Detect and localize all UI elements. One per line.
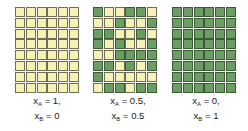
molecule-b-cell — [93, 61, 103, 71]
molecule-a-cell — [47, 39, 57, 49]
molecule-b-cell — [125, 7, 135, 17]
lattice-grid — [93, 7, 157, 93]
molecule-b-cell — [115, 18, 125, 28]
label-mixed: xA = 0.5, xB = 0.5 — [88, 95, 168, 125]
molecule-b-cell — [204, 50, 214, 60]
molecule-b-cell — [172, 39, 182, 49]
molecule-a-cell — [58, 7, 68, 17]
molecule-b-cell — [172, 29, 182, 39]
molecule-a-cell — [115, 61, 125, 71]
molecule-a-cell — [37, 18, 47, 28]
molecule-a-cell — [125, 72, 135, 82]
molecule-b-cell — [93, 72, 103, 82]
molecule-b-cell — [194, 72, 204, 82]
molecule-a-cell — [58, 83, 68, 93]
molecule-b-cell — [147, 39, 157, 49]
molecule-b-cell — [104, 29, 114, 39]
molecule-a-cell — [58, 29, 68, 39]
molecule-a-cell — [125, 29, 135, 39]
molecule-a-cell — [58, 18, 68, 28]
panel-pure-a — [15, 7, 79, 93]
molecule-a-cell — [104, 7, 114, 17]
molecule-b-cell — [115, 83, 125, 93]
molecule-a-cell — [93, 18, 103, 28]
molecule-a-cell — [15, 39, 25, 49]
label-pure-a: xA = 1, xB = 0 — [7, 95, 87, 125]
molecule-a-cell — [47, 61, 57, 71]
molecule-a-cell — [115, 7, 125, 17]
molecule-a-cell — [125, 39, 135, 49]
molecule-a-cell — [37, 83, 47, 93]
molecule-b-cell — [93, 29, 103, 39]
molecule-b-cell — [194, 29, 204, 39]
molecule-a-cell — [58, 61, 68, 71]
molecule-a-cell — [26, 83, 36, 93]
molecule-b-cell — [172, 50, 182, 60]
molecule-a-cell — [125, 83, 135, 93]
molecule-b-cell — [194, 50, 204, 60]
molecule-b-cell — [104, 61, 114, 71]
molecule-a-cell — [136, 18, 146, 28]
molecule-b-cell — [183, 18, 193, 28]
molecule-b-cell — [172, 83, 182, 93]
molecule-b-cell — [226, 83, 236, 93]
molecule-b-cell — [215, 39, 225, 49]
molecule-b-cell — [147, 18, 157, 28]
molecule-a-cell — [15, 50, 25, 60]
molecule-a-cell — [26, 72, 36, 82]
molecule-a-cell — [37, 29, 47, 39]
molecule-a-cell — [26, 61, 36, 71]
molecule-a-cell — [47, 72, 57, 82]
mole-fraction-b: xB = 0.5 — [88, 110, 168, 125]
molecule-a-cell — [136, 61, 146, 71]
panel-pure-b — [172, 7, 236, 93]
molecule-a-cell — [15, 61, 25, 71]
molecule-a-cell — [104, 39, 114, 49]
molecule-a-cell — [26, 39, 36, 49]
lattice-grid — [15, 7, 79, 93]
molecule-b-cell — [147, 61, 157, 71]
molecule-b-cell — [215, 29, 225, 39]
molecule-b-cell — [194, 7, 204, 17]
panel-mixed — [93, 7, 157, 93]
molecule-b-cell — [115, 50, 125, 60]
molecule-b-cell — [93, 39, 103, 49]
molecule-a-cell — [15, 83, 25, 93]
label-pure-b: xA = 0, xB = 1 — [166, 95, 246, 125]
molecule-b-cell — [183, 83, 193, 93]
molecule-b-cell — [226, 61, 236, 71]
molecule-a-cell — [37, 61, 47, 71]
molecule-a-cell — [58, 72, 68, 82]
molecule-b-cell — [172, 18, 182, 28]
molecule-a-cell — [26, 7, 36, 17]
molecule-a-cell — [93, 83, 103, 93]
molecule-b-cell — [93, 7, 103, 17]
molecule-b-cell — [172, 72, 182, 82]
molecule-b-cell — [215, 7, 225, 17]
molecule-a-cell — [15, 29, 25, 39]
molecule-a-cell — [136, 39, 146, 49]
mole-fraction-a: xA = 0.5, — [88, 95, 168, 110]
molecule-b-cell — [194, 39, 204, 49]
molecule-b-cell — [226, 7, 236, 17]
molecule-b-cell — [204, 7, 214, 17]
molecule-b-cell — [183, 61, 193, 71]
molecule-b-cell — [215, 72, 225, 82]
molecule-b-cell — [215, 83, 225, 93]
molecule-b-cell — [172, 7, 182, 17]
molecule-b-cell — [204, 61, 214, 71]
molecule-a-cell — [104, 50, 114, 60]
molecule-a-cell — [47, 29, 57, 39]
mole-fraction-a: xA = 0, — [166, 95, 246, 110]
molecule-a-cell — [26, 50, 36, 60]
molecule-a-cell — [104, 18, 114, 28]
molecule-b-cell — [183, 72, 193, 82]
molecule-b-cell — [226, 29, 236, 39]
molecule-b-cell — [183, 39, 193, 49]
molecule-a-cell — [15, 7, 25, 17]
molecule-a-cell — [58, 39, 68, 49]
molecule-a-cell — [69, 39, 79, 49]
molecule-a-cell — [125, 18, 135, 28]
molecule-a-cell — [136, 72, 146, 82]
molecule-b-cell — [115, 39, 125, 49]
